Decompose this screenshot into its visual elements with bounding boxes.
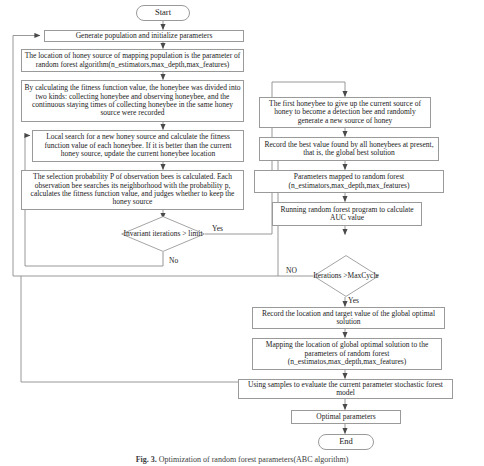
- node-record-location[interactable]: Record the location and target value of …: [252, 307, 445, 329]
- node-using-samples[interactable]: Using samples to evaluate the current pa…: [238, 379, 453, 399]
- node-generate-population[interactable]: Generate population and initialize param…: [44, 30, 244, 42]
- node-local-search[interactable]: Local search for a new honey source and …: [32, 130, 244, 162]
- node-end[interactable]: End: [318, 434, 374, 450]
- node-iterations-decision[interactable]: Iterations >MaxCycle: [313, 255, 379, 297]
- node-map-location[interactable]: The location of honey source of mapping …: [21, 49, 244, 72]
- node-iterations-decision-label: Iterations >MaxCycle: [313, 272, 379, 280]
- figure-caption: Fig. 3. Optimization of random forest pa…: [0, 455, 484, 464]
- node-optimal-parameters[interactable]: Optimal parameters: [291, 410, 401, 424]
- node-mapping-global[interactable]: Mapping the location of global optimal s…: [252, 338, 442, 370]
- flowchart-figure: Start Generate population and initialize…: [0, 0, 484, 466]
- node-params-mapped[interactable]: Parameters mapped to random forest (n_es…: [254, 170, 444, 193]
- node-fitness-divide[interactable]: By calculating the fitness function valu…: [21, 80, 244, 122]
- node-invariant-decision-label: Invariant iterations > limit: [123, 230, 202, 238]
- node-selection-probability[interactable]: The selection probability P of observati…: [21, 170, 244, 210]
- node-start[interactable]: Start: [136, 5, 190, 21]
- node-running-rf[interactable]: Running random forest program to calcula…: [272, 202, 422, 226]
- node-first-honeybee[interactable]: The first honeybee to give up the curren…: [259, 97, 431, 128]
- edge-label-invariant-no: No: [169, 256, 178, 265]
- edge-label-iterations-no: NO: [286, 266, 297, 275]
- figure-caption-text: Optimization of random forest parameters…: [159, 455, 349, 464]
- edge-label-iterations-yes: Yes: [348, 296, 359, 305]
- edge-label-invariant-yes: Yes: [212, 224, 223, 233]
- figure-caption-label: Fig. 3.: [136, 455, 157, 464]
- node-record-best[interactable]: Record the best value found by all honey…: [259, 137, 439, 161]
- node-invariant-decision[interactable]: Invariant iterations > limit: [121, 216, 205, 252]
